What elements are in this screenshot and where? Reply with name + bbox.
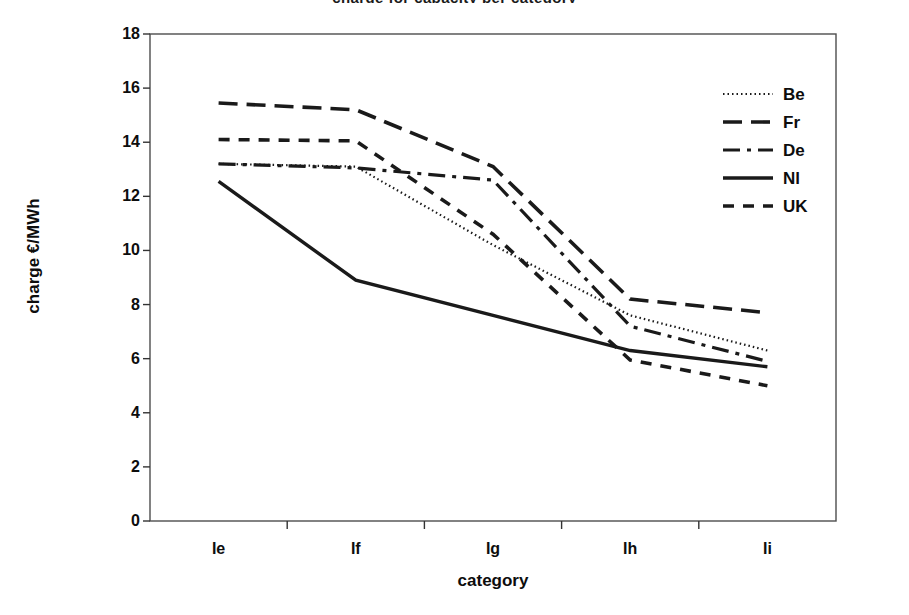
series-line-uk bbox=[219, 140, 768, 386]
legend-swatch-uk-icon bbox=[722, 199, 774, 213]
series-line-de bbox=[219, 164, 768, 362]
legend-item-nl[interactable]: Nl bbox=[722, 164, 862, 192]
legend-item-fr[interactable]: Fr bbox=[722, 108, 862, 136]
series-line-be bbox=[219, 164, 768, 351]
series-lines bbox=[219, 103, 768, 386]
legend: BeFrDeNlUK bbox=[722, 80, 862, 220]
legend-item-de[interactable]: De bbox=[722, 136, 862, 164]
line-chart: charge for capacity per category charge … bbox=[0, 0, 909, 615]
legend-swatch-nl-icon bbox=[722, 171, 774, 185]
legend-item-be[interactable]: Be bbox=[722, 80, 862, 108]
legend-label: De bbox=[783, 142, 805, 159]
legend-label: UK bbox=[783, 198, 808, 215]
legend-label: Be bbox=[783, 86, 805, 103]
legend-item-uk[interactable]: UK bbox=[722, 192, 862, 220]
axis-ticks bbox=[143, 34, 699, 529]
series-line-fr bbox=[219, 103, 768, 313]
legend-label: Nl bbox=[783, 170, 800, 187]
legend-swatch-be-icon bbox=[722, 87, 774, 101]
legend-swatch-de-icon bbox=[722, 143, 774, 157]
legend-swatch-fr-icon bbox=[722, 115, 774, 129]
legend-label: Fr bbox=[783, 114, 800, 131]
